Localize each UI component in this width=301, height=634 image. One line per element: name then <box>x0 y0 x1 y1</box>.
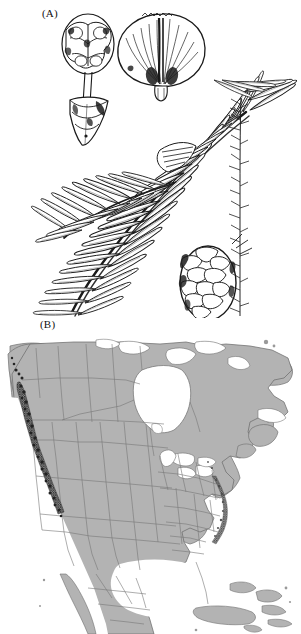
seed-cone <box>179 234 252 320</box>
distribution-map-canvas <box>0 336 301 634</box>
seed-scale-with-stalk <box>62 14 114 145</box>
north-america-range-map <box>0 336 301 634</box>
fan-shaped-cone-scale <box>118 13 205 101</box>
figure-root: (A) <box>0 0 301 634</box>
conifer-illustration <box>0 0 301 330</box>
panel-b-map: (B) <box>0 318 301 634</box>
panel-a-illustration: (A) <box>0 0 301 330</box>
panel-b-label: (B) <box>40 318 55 330</box>
upper-needle-spray <box>213 78 297 112</box>
